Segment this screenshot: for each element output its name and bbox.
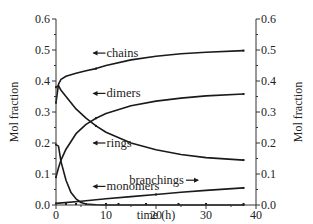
arrow-left-icon <box>93 141 98 146</box>
arrow-right-icon <box>194 178 199 183</box>
svg-text:branchings: branchings <box>129 173 184 187</box>
y-axis-title-right: Mol fraction <box>291 82 305 142</box>
svg-text:rings: rings <box>107 136 132 150</box>
arrow-left-icon <box>93 184 98 189</box>
x-tick-label: 0 <box>53 208 59 222</box>
svg-text:dimers: dimers <box>107 86 141 100</box>
y-tick-label-left: 0.5 <box>35 43 50 57</box>
y-tick-label-right: 0.0 <box>261 198 276 212</box>
arrow-left-icon <box>93 51 98 56</box>
y-tick-label-left: 0.0 <box>35 198 50 212</box>
annotation-branchings: branchings <box>129 173 199 187</box>
y-axis-title-left: Mol fraction <box>7 82 21 142</box>
x-tick-label: 30 <box>200 208 212 222</box>
y-tick-label-left: 0.6 <box>35 12 50 26</box>
y-tick-label-right: 0.6 <box>261 12 276 26</box>
x-tick-label: 10 <box>100 208 112 222</box>
line-chart: 0.00.00.10.10.20.20.30.30.40.40.50.50.60… <box>0 0 313 224</box>
y-tick-label-right: 0.1 <box>261 167 276 181</box>
annotations: chainsdimersringsmonomersbranchings <box>93 46 200 193</box>
x-tick-label: 40 <box>250 208 262 222</box>
annotation-dimers: dimers <box>93 86 141 100</box>
arrow-left-icon <box>93 91 98 96</box>
x-axis-title: time (h) <box>137 208 175 222</box>
y-tick-label-right: 0.3 <box>261 105 276 119</box>
y-tick-label-right: 0.5 <box>261 43 276 57</box>
y-tick-label-left: 0.3 <box>35 105 50 119</box>
annotation-rings: rings <box>93 136 132 150</box>
annotation-chains: chains <box>93 46 139 60</box>
y-tick-label-left: 0.4 <box>35 74 50 88</box>
svg-text:chains: chains <box>107 46 139 60</box>
y-tick-label-right: 0.2 <box>261 136 276 150</box>
series-rings <box>56 94 244 177</box>
y-tick-label-right: 0.4 <box>261 74 276 88</box>
y-tick-label-left: 0.1 <box>35 167 50 181</box>
series-dimers <box>56 86 244 161</box>
y-tick-label-left: 0.2 <box>35 136 50 150</box>
